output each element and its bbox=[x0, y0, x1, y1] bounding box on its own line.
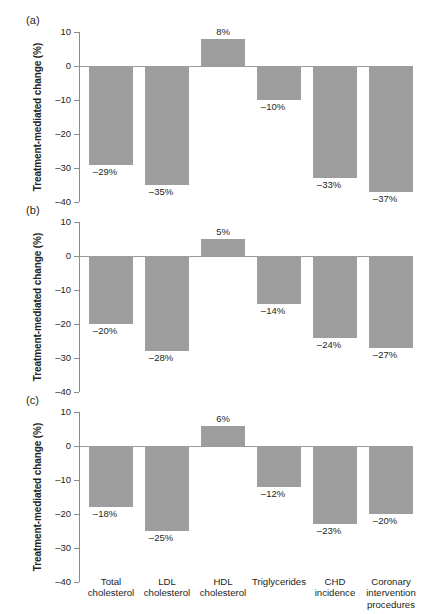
plot-area: 100–10–20–30–40–29%–35%8%–10%–33%–37% bbox=[79, 32, 409, 202]
bar-value-label: 5% bbox=[201, 226, 245, 237]
y-tick-label: 0 bbox=[66, 250, 71, 261]
y-axis-title: Treatment-mediated change (%) bbox=[32, 32, 46, 202]
y-tick-label: 10 bbox=[60, 216, 71, 227]
bar bbox=[313, 256, 357, 338]
y-axis-line bbox=[79, 222, 80, 392]
bar-value-label: –24% bbox=[307, 339, 351, 350]
panel-c: (c)Treatment-mediated change (%)100–10–2… bbox=[0, 388, 424, 578]
caption-sliver bbox=[22, 601, 412, 607]
y-axis-line bbox=[79, 32, 80, 202]
plot-area: 100–10–20–30–40–18%–25%6%–12%–23%–20% bbox=[79, 412, 409, 582]
bar bbox=[89, 66, 133, 165]
y-tick-mark bbox=[74, 480, 79, 481]
bar-value-label: –20% bbox=[83, 325, 127, 336]
bar-value-label: –35% bbox=[139, 186, 183, 197]
y-tick-mark bbox=[74, 134, 79, 135]
category-label-line: LDL bbox=[135, 576, 199, 587]
category-label-line: cholesterol bbox=[135, 587, 199, 598]
y-tick-label: –10 bbox=[55, 474, 71, 485]
y-tick-label: –30 bbox=[55, 542, 71, 553]
bar bbox=[89, 256, 133, 324]
category-label-line: CHD bbox=[303, 576, 367, 587]
y-tick-mark bbox=[74, 324, 79, 325]
bar bbox=[257, 256, 301, 304]
bar-value-label: –25% bbox=[139, 532, 183, 543]
y-tick-label: –20 bbox=[55, 508, 71, 519]
category-axis-labels: TotalcholesterolLDLcholesterolHDLcholest… bbox=[79, 576, 409, 614]
panel-b: (b)Treatment-mediated change (%)100–10–2… bbox=[0, 198, 424, 388]
bar-value-label: 6% bbox=[201, 413, 245, 424]
category-label: CHDincidence bbox=[303, 576, 367, 599]
y-tick-label: –30 bbox=[55, 162, 71, 173]
bar-value-label: –14% bbox=[251, 305, 295, 316]
category-label-line: HDL bbox=[191, 576, 255, 587]
category-label-line: intervention bbox=[359, 587, 423, 598]
bar-value-label: 8% bbox=[201, 26, 245, 37]
panel-label: (a) bbox=[26, 14, 40, 26]
bar-value-label: –12% bbox=[251, 488, 295, 499]
y-tick-label: 0 bbox=[66, 60, 71, 71]
bar bbox=[201, 426, 245, 446]
bar-value-label: –28% bbox=[139, 352, 183, 363]
category-label-line: Total bbox=[79, 576, 143, 587]
y-tick-mark bbox=[74, 222, 79, 223]
y-axis-title: Treatment-mediated change (%) bbox=[32, 222, 46, 392]
y-tick-label: –30 bbox=[55, 352, 71, 363]
bar-value-label: –20% bbox=[363, 515, 407, 526]
category-label-line: cholesterol bbox=[191, 587, 255, 598]
y-tick-mark bbox=[74, 548, 79, 549]
y-tick-mark bbox=[74, 290, 79, 291]
y-tick-mark bbox=[74, 514, 79, 515]
bar bbox=[145, 256, 189, 351]
panel-label: (c) bbox=[26, 394, 39, 406]
y-tick-mark bbox=[74, 168, 79, 169]
y-tick-label: 0 bbox=[66, 440, 71, 451]
category-label: HDLcholesterol bbox=[191, 576, 255, 599]
category-label-line: incidence bbox=[303, 587, 367, 598]
bar bbox=[369, 66, 413, 192]
bar-value-label: –10% bbox=[251, 101, 295, 112]
bar bbox=[369, 446, 413, 514]
bar bbox=[313, 66, 357, 178]
y-axis-title: Treatment-mediated change (%) bbox=[32, 412, 46, 582]
y-tick-label: –20 bbox=[55, 128, 71, 139]
plot-area: 100–10–20–30–40–20%–28%5%–14%–24%–27% bbox=[79, 222, 409, 392]
category-label-line: cholesterol bbox=[79, 587, 143, 598]
y-tick-label: –10 bbox=[55, 284, 71, 295]
bar-value-label: –33% bbox=[307, 179, 351, 190]
panel-label: (b) bbox=[26, 204, 40, 216]
bar-value-label: –29% bbox=[83, 166, 127, 177]
bar bbox=[145, 66, 189, 185]
bar bbox=[369, 256, 413, 348]
category-label: Triglycerides bbox=[247, 576, 311, 587]
bar-value-label: –18% bbox=[83, 508, 127, 519]
y-tick-label: 10 bbox=[60, 26, 71, 37]
y-tick-label: –20 bbox=[55, 318, 71, 329]
y-axis-line bbox=[79, 412, 80, 582]
y-tick-mark bbox=[74, 358, 79, 359]
bar bbox=[313, 446, 357, 524]
bar bbox=[257, 446, 301, 487]
category-label: Totalcholesterol bbox=[79, 576, 143, 599]
y-tick-label: 10 bbox=[60, 406, 71, 417]
y-tick-mark bbox=[74, 412, 79, 413]
panel-a: (a)Treatment-mediated change (%)100–10–2… bbox=[0, 8, 424, 198]
bar-value-label: –27% bbox=[363, 349, 407, 360]
bar bbox=[201, 239, 245, 256]
y-tick-label: –40 bbox=[55, 576, 71, 587]
category-label: LDLcholesterol bbox=[135, 576, 199, 599]
bar bbox=[257, 66, 301, 100]
y-tick-mark bbox=[74, 32, 79, 33]
bar bbox=[201, 39, 245, 66]
y-tick-mark bbox=[74, 100, 79, 101]
category-label-line: Coronary bbox=[359, 576, 423, 587]
category-label-line: Triglycerides bbox=[247, 576, 311, 587]
bar bbox=[89, 446, 133, 507]
y-tick-label: –10 bbox=[55, 94, 71, 105]
bar-value-label: –23% bbox=[307, 525, 351, 536]
bar bbox=[145, 446, 189, 531]
